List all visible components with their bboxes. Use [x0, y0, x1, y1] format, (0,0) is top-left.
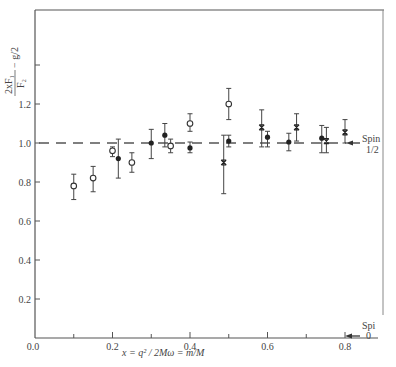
open-circle-marker-icon [90, 175, 96, 181]
open-circle-marker-icon [168, 143, 174, 149]
x-tick-label: 0.2 [106, 341, 119, 352]
open-circle-marker-icon [129, 160, 135, 166]
y-tick-label: 0.8 [19, 177, 32, 188]
axis-ticks: 0.20.40.60.81.01.20.00.20.40.60.8 [19, 65, 352, 352]
y-axis-title-tail: − g/2 [9, 47, 20, 68]
open-circle-marker-icon [110, 148, 116, 154]
filled-circle-marker-icon [187, 145, 192, 150]
plot-frame [35, 10, 384, 338]
data-point-filled-circle [226, 135, 231, 147]
data-point-open-circle [110, 147, 116, 157]
y-tick-label: 0.2 [19, 294, 32, 305]
y-tick-label: 0.6 [19, 216, 32, 227]
filled-circle-marker-icon [226, 138, 231, 143]
data-point-open-circle [226, 88, 232, 119]
data-point-open-circle [168, 139, 174, 153]
data-point-open-circle [129, 153, 135, 173]
reference-lines [39, 141, 360, 339]
data-point-filled-circle [319, 125, 324, 152]
filled-circle-marker-icon [116, 156, 121, 161]
data-point-open-circle [90, 166, 96, 191]
x-axis-title: x = q² / 2Mω = m/M [121, 347, 205, 358]
data-point-filled-circle [265, 131, 270, 147]
data-point-cross [343, 120, 348, 143]
data-point-filled-circle [149, 129, 154, 158]
chart: 0.20.40.60.81.01.20.00.20.40.60.8 Spin 1… [0, 0, 396, 367]
filled-circle-marker-icon [149, 140, 154, 145]
y-tick-label: 1.2 [19, 99, 32, 110]
spin-half-fraction: 1/2 [366, 144, 379, 155]
open-circle-marker-icon [71, 183, 77, 189]
spin-half-label: Spin [362, 133, 380, 144]
data-point-filled-circle [286, 133, 291, 151]
spin-zero-value: 0 [366, 330, 371, 341]
data-point-open-circle [71, 174, 77, 199]
data-point-open-circle [187, 114, 193, 132]
y-tick-label: 0.4 [19, 255, 32, 266]
data-points [71, 88, 348, 199]
x-tick-label: 0.6 [261, 341, 274, 352]
filled-circle-marker-icon [286, 139, 291, 144]
data-point-cross [294, 114, 299, 141]
open-circle-marker-icon [187, 121, 193, 127]
x-tick-label: 0.8 [339, 341, 352, 352]
x-tick-label: 0.0 [27, 341, 40, 352]
open-circle-marker-icon [226, 101, 232, 107]
y-axis-title: 2xF₁ F₂ − g/2 [3, 47, 26, 96]
filled-circle-marker-icon [265, 135, 270, 140]
data-point-cross [324, 127, 329, 152]
data-point-filled-circle [116, 139, 121, 178]
y-axis-title-numerator: 2xF₁ [3, 75, 14, 94]
data-point-cross [259, 110, 264, 147]
y-tick-label: 1.0 [19, 138, 32, 149]
data-point-filled-circle [187, 142, 192, 153]
data-point-cross [221, 135, 226, 194]
filled-circle-marker-icon [162, 133, 167, 138]
y-axis-title-denominator: F₂ [15, 79, 26, 88]
filled-circle-marker-icon [319, 136, 324, 141]
